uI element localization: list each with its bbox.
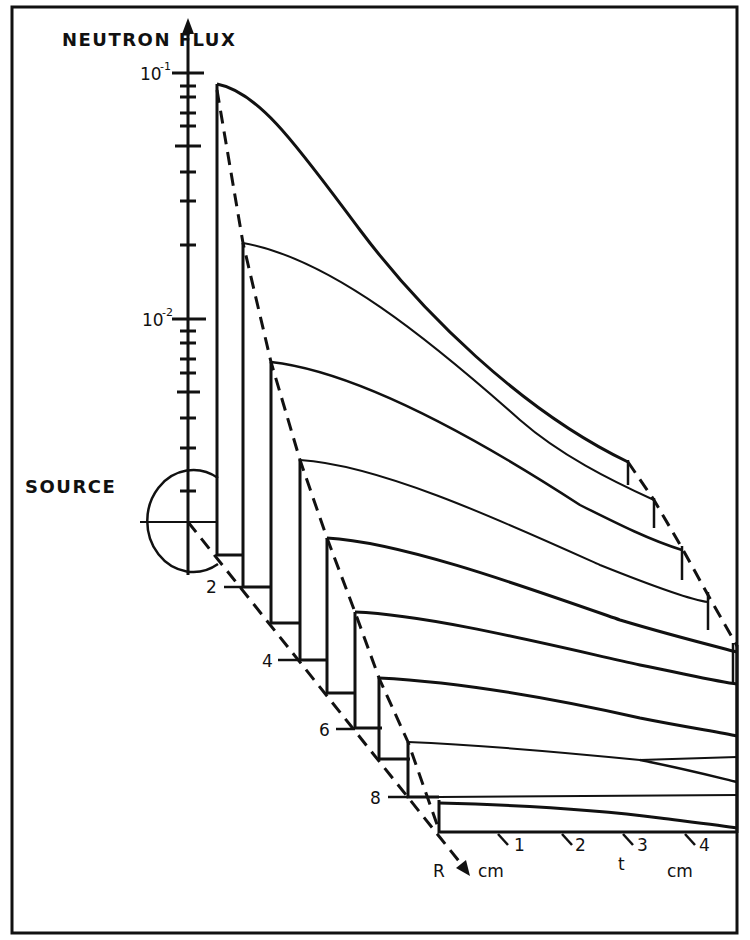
t-tick-2: 2 — [575, 835, 586, 855]
r-tick-4: 4 — [262, 651, 273, 671]
y-tick-label-2: 10 -2 — [142, 306, 173, 330]
svg-text:10: 10 — [140, 64, 162, 84]
flux-curves — [217, 84, 737, 828]
r-axis-arrow-icon — [456, 860, 470, 876]
r-axis-label: R — [433, 861, 445, 881]
r-tick-8: 8 — [370, 788, 381, 808]
t-tick-3: 3 — [637, 835, 648, 855]
source-circle — [140, 470, 218, 572]
r-tick-6: 6 — [319, 720, 330, 740]
t-tick-1: 1 — [514, 835, 525, 855]
r-axis-unit: cm — [478, 861, 504, 881]
y-tick-label-1: 10 -1 — [140, 60, 171, 84]
svg-text:-1: -1 — [160, 60, 171, 73]
t-axis-label: t — [618, 854, 625, 874]
svg-text:10: 10 — [142, 310, 164, 330]
source-label: SOURCE — [25, 476, 116, 497]
svg-text:-2: -2 — [162, 306, 173, 319]
slab-verticals — [217, 84, 737, 832]
t-axis-ticks — [498, 834, 695, 845]
y-axis-label: NEUTRON FLUX — [62, 29, 236, 50]
t-tick-4: 4 — [699, 835, 710, 855]
flux-axis — [172, 18, 206, 575]
neutron-flux-diagram: NEUTRON FLUX 10 -1 10 -2 SOURCE — [0, 0, 750, 940]
r-tick-2: 2 — [206, 577, 217, 597]
t-axis-unit: cm — [667, 861, 693, 881]
